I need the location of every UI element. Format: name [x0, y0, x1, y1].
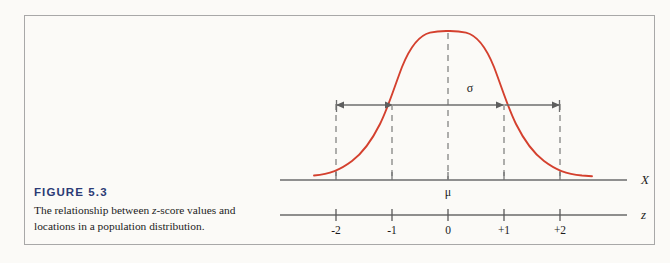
- z-tick-label-+1: +1: [498, 224, 510, 236]
- figure-number-label: FIGURE 5.3: [34, 186, 264, 199]
- normal-curve: [314, 31, 592, 176]
- caption-part-1: The relationship between: [34, 204, 152, 216]
- mu-label: μ: [445, 185, 451, 199]
- caption-part-1b: -score values and: [156, 204, 235, 216]
- caption-part-2: locations in a population distribution.: [34, 220, 205, 232]
- arrowhead-right-at-+1: [496, 102, 504, 109]
- arrowhead-left-at--2: [336, 102, 344, 109]
- dashed-reference-lines: [336, 33, 560, 179]
- figure-page: σ μ X z -2 -1 0 +1 +2 FIGURE 5.3 The rel…: [0, 0, 670, 263]
- sigma-label: σ: [467, 81, 474, 95]
- z-axis-label: z: [640, 207, 646, 222]
- figure-caption-text: The relationship between z-score values …: [34, 203, 249, 234]
- x-axis-label: X: [640, 172, 650, 187]
- figure-caption-block: FIGURE 5.3 The relationship between z-sc…: [34, 186, 264, 234]
- z-tick-label-0: 0: [445, 224, 451, 236]
- arrowhead-right-at-+2: [552, 102, 560, 109]
- z-tick-label-+2: +2: [554, 224, 566, 236]
- z-tick-label--2: -2: [331, 224, 341, 236]
- z-tick-label--1: -1: [387, 224, 397, 236]
